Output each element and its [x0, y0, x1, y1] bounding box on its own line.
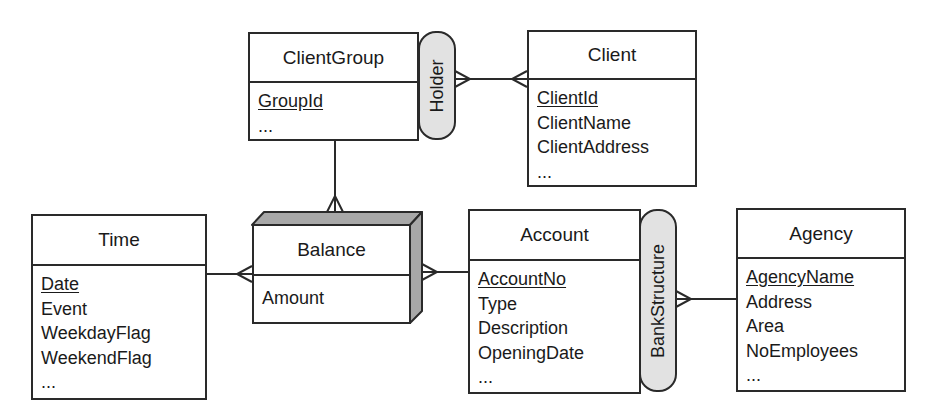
attribute: Area [746, 314, 904, 339]
entity-agency[interactable]: Agency AgencyName Address Area NoEmploye… [736, 208, 906, 392]
entity-title: Balance [254, 226, 409, 276]
entity-account[interactable]: Account AccountNo Type Description Openi… [468, 209, 641, 394]
hierarchy-label: BankStructure [648, 243, 669, 357]
attribute: Amount [262, 286, 409, 311]
attribute: ... [478, 365, 639, 390]
attribute-key: AccountNo [478, 267, 639, 292]
attribute: NoEmployees [746, 339, 904, 364]
hierarchy-bankstructure[interactable]: BankStructure [639, 209, 677, 392]
entity-title: Agency [738, 210, 904, 259]
attribute: Description [478, 316, 639, 341]
attribute: OpeningDate [478, 341, 639, 366]
entity-title: Account [470, 211, 639, 261]
attribute: Type [478, 292, 639, 317]
attribute-key: AgencyName [746, 265, 904, 290]
attribute: Address [746, 290, 904, 315]
attribute: ... [746, 363, 904, 388]
entity-balance[interactable]: Balance Amount [252, 224, 411, 324]
